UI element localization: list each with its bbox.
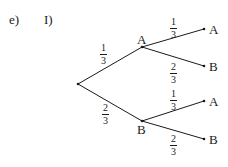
prob-B-B: 2 3 <box>170 134 177 157</box>
prob-A-B-numerator: 2 <box>170 62 177 72</box>
prob-B-A: 1 3 <box>170 89 177 112</box>
prob-A-A: 1 3 <box>170 17 177 40</box>
prob-B-B-numerator: 2 <box>170 134 177 144</box>
node-B-label: B <box>137 123 146 136</box>
tree-diagram-lines <box>0 0 228 167</box>
prob-root-B-numerator: 2 <box>102 103 109 113</box>
prob-root-B: 2 3 <box>102 103 109 126</box>
prob-A-B: 2 3 <box>170 62 177 85</box>
prob-A-A-numerator: 1 <box>170 17 177 27</box>
root-node-dot <box>77 83 80 86</box>
leaf-BB-label: B <box>209 133 218 146</box>
prob-root-A: 1 3 <box>100 43 107 66</box>
leaf-AB-dot <box>203 65 206 68</box>
branch-root-B <box>78 84 142 121</box>
node-A-label: A <box>137 33 146 46</box>
prob-B-A-numerator: 1 <box>170 89 177 99</box>
part-label: e) <box>9 13 19 26</box>
prob-root-A-numerator: 1 <box>100 43 107 53</box>
prob-root-A-denominator: 3 <box>100 56 107 66</box>
leaf-BA-label: A <box>209 95 218 108</box>
prob-B-A-denominator: 3 <box>170 102 177 112</box>
leaf-AA-dot <box>203 28 206 31</box>
leaf-BA-dot <box>203 100 206 103</box>
prob-root-B-denominator: 3 <box>102 116 109 126</box>
prob-A-B-denominator: 3 <box>170 75 177 85</box>
prob-B-B-denominator: 3 <box>170 147 177 157</box>
leaf-AA-label: A <box>209 23 218 36</box>
leaf-BB-dot <box>203 138 206 141</box>
prob-A-A-denominator: 3 <box>170 30 177 40</box>
branch-root-A <box>78 47 142 84</box>
sub-part-label: I) <box>44 13 53 26</box>
leaf-AB-label: B <box>209 60 218 73</box>
